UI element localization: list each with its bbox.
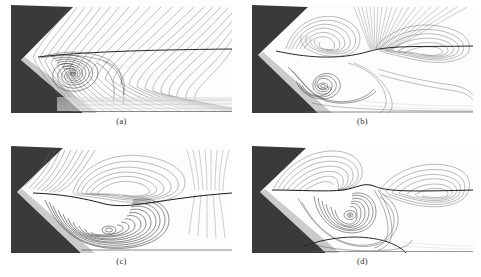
panel-caption-a: (a) bbox=[11, 116, 232, 126]
flow-field-svg-b bbox=[252, 5, 473, 113]
figure-panel-d bbox=[252, 146, 473, 253]
flow-field-svg-a bbox=[11, 5, 232, 113]
panel-caption-c: (c) bbox=[11, 256, 232, 266]
flow-field-svg-c bbox=[11, 146, 232, 253]
figure-panel-c bbox=[11, 146, 232, 253]
flow-field-plot-d bbox=[252, 146, 473, 253]
panel-caption-b: (b) bbox=[252, 116, 473, 126]
figure-root: (a) bbox=[0, 0, 481, 277]
flow-field-svg-d bbox=[252, 146, 473, 253]
flow-field-plot-b bbox=[252, 5, 473, 113]
figure-panel-a bbox=[11, 5, 232, 113]
figure-panel-b bbox=[252, 5, 473, 113]
flow-field-plot-a bbox=[11, 5, 232, 113]
panel-caption-d: (d) bbox=[252, 256, 473, 266]
flow-field-plot-c bbox=[11, 146, 232, 253]
